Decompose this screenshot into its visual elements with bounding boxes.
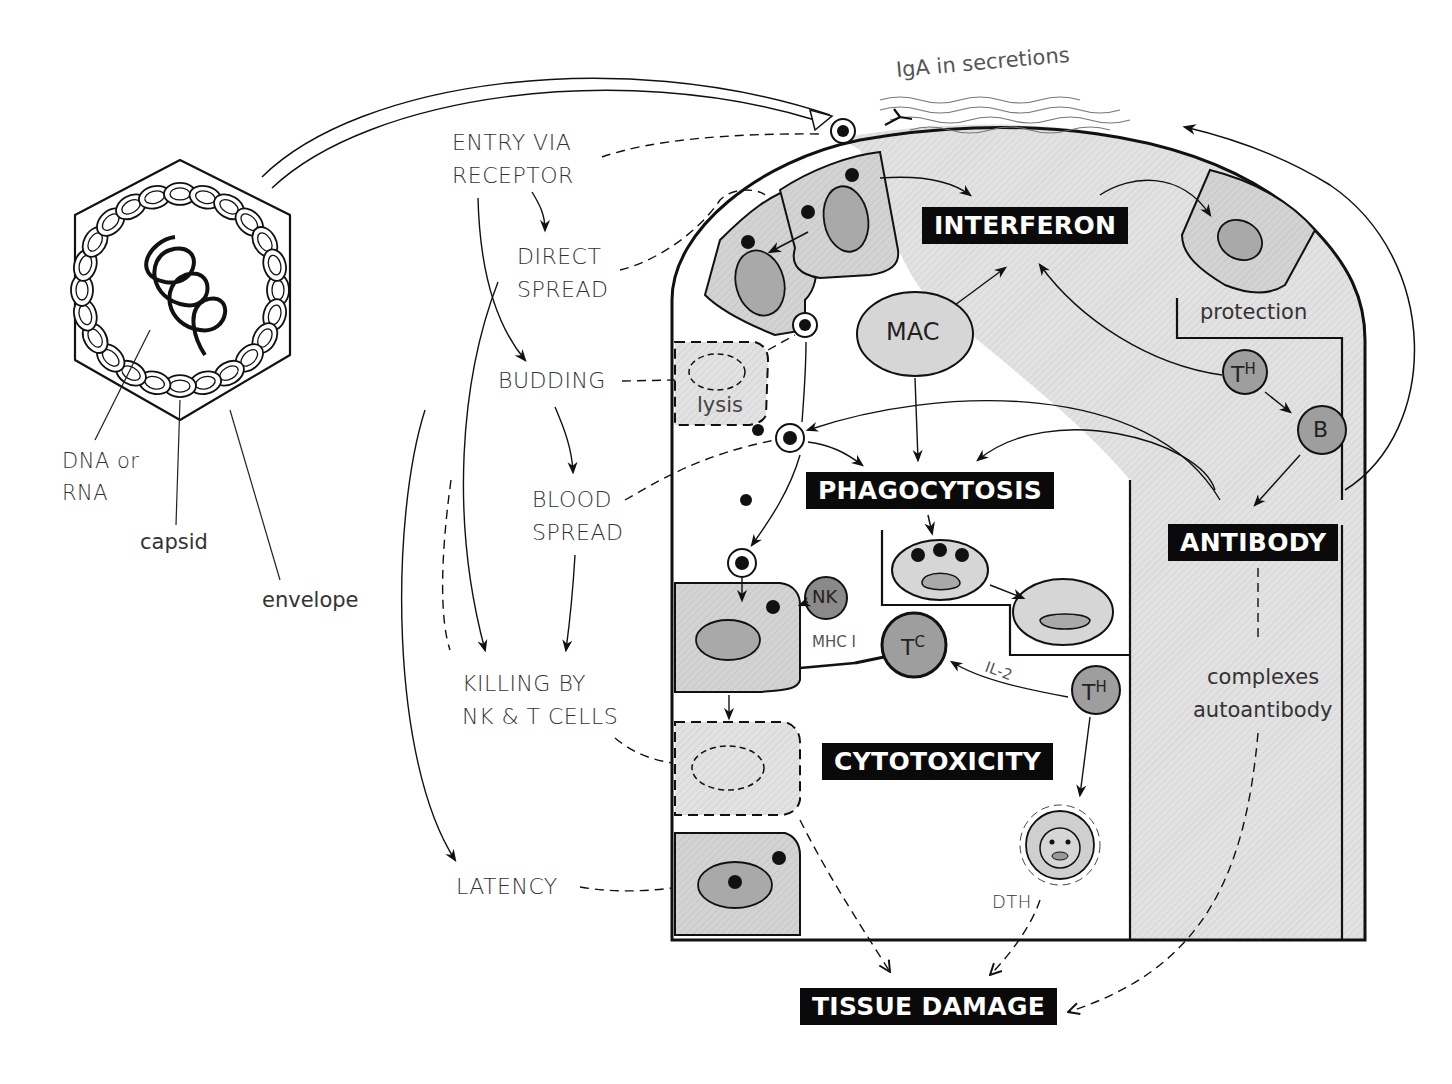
- dth-label: DTH: [992, 885, 1032, 918]
- mhc-label: MHC I: [812, 633, 856, 651]
- lysis-label: lysis: [697, 393, 743, 417]
- dth-granuloma-icon: [1020, 805, 1100, 885]
- entry-arrowhead-icon: [810, 110, 832, 130]
- virion-icon: [71, 160, 290, 580]
- budding-virion-icon: [793, 313, 817, 337]
- tissue-damage-box: TISSUE DAMAGE: [800, 988, 1057, 1025]
- phagocyte-with-virus-icon: [892, 540, 988, 600]
- killing-label: KILLING BY NK & T CELLS: [462, 667, 618, 733]
- nucleic-acid-label-line1: DNA or: [62, 445, 139, 477]
- entry-label-line2: RECEPTOR: [452, 159, 574, 192]
- budding-label: BUDDING: [498, 364, 606, 397]
- entry-virion-icon: [831, 119, 855, 143]
- envelope-label: envelope: [262, 588, 359, 612]
- phagocytosis-box: PHAGOCYTOSIS: [806, 472, 1054, 509]
- blood-label-line2: SPREAD: [532, 516, 623, 549]
- th-bottom-sup: H: [1095, 678, 1106, 696]
- blood-label-line1: BLOOD: [532, 483, 623, 516]
- complexes-label: complexes: [1207, 665, 1319, 689]
- interferon-box: INTERFERON: [922, 207, 1128, 244]
- protection-label: protection: [1200, 300, 1307, 324]
- tc-sup: C: [914, 633, 924, 651]
- entry-label-line1: ENTRY VIA: [452, 126, 574, 159]
- th-top-sup: H: [1244, 360, 1255, 378]
- nucleic-acid-label-line2: RNA: [62, 477, 139, 509]
- killing-label-line1: KILLING BY: [462, 667, 618, 700]
- infected-target-cell: [675, 583, 800, 692]
- th-top-letter: T: [1231, 362, 1244, 387]
- antibody-box: ANTIBODY: [1168, 524, 1338, 561]
- mac-label: MAC: [886, 318, 939, 346]
- b-label: B: [1313, 417, 1328, 442]
- th-top-label: TH: [1231, 360, 1256, 387]
- entry-via-receptor-label: ENTRY VIA RECEPTOR: [452, 126, 574, 192]
- phagocyte-digesting-icon: [1013, 579, 1113, 645]
- killing-label-line2: NK & T CELLS: [462, 700, 618, 733]
- latently-infected-cell: [675, 833, 800, 935]
- tc-label: TC: [901, 633, 925, 660]
- infected-epithelial-cell-2: [780, 152, 898, 278]
- blood-spread-label: BLOOD SPREAD: [532, 483, 623, 549]
- th-bottom-letter: T: [1082, 680, 1095, 705]
- cytotoxicity-box: CYTOTOXICITY: [822, 743, 1053, 780]
- tc-letter: T: [901, 635, 914, 660]
- killed-cell: [675, 722, 800, 815]
- direct-spread-label: DIRECT SPREAD: [517, 240, 608, 306]
- latency-label: LATENCY: [456, 870, 558, 903]
- capsid-label: capsid: [140, 530, 208, 554]
- nucleic-acid-label: DNA or RNA: [62, 445, 139, 509]
- free-virion-icon: [776, 424, 804, 452]
- nk-label: NK: [812, 586, 837, 607]
- th-bottom-label: TH: [1082, 678, 1107, 705]
- secretion-waves: [880, 97, 1130, 133]
- direct-label-line2: SPREAD: [517, 273, 608, 306]
- autoantibody-label: autoantibody: [1193, 698, 1332, 722]
- direct-label-line1: DIRECT: [517, 240, 608, 273]
- attaching-virion-icon: [728, 549, 756, 577]
